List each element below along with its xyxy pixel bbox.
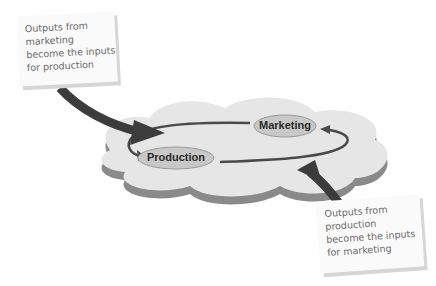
production-node-label: Production (138, 151, 214, 163)
marketing-node-label: Marketing (254, 119, 316, 131)
note-marketing-to-production: Outputs from marketing become the inputs… (16, 11, 118, 86)
cloud-shape (102, 97, 388, 196)
note-production-to-marketing: Outputs from production become the input… (316, 194, 425, 273)
